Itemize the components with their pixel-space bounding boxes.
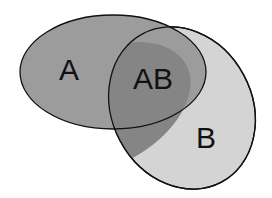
intersection-label: AB [133, 62, 173, 95]
set-a-label: A [59, 53, 79, 86]
set-b-label: B [196, 121, 216, 154]
venn-diagram: A AB B [0, 0, 272, 198]
